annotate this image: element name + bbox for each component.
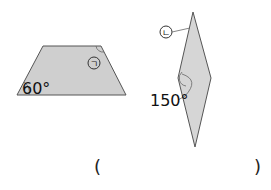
- angle-label-60: 60°: [22, 79, 50, 98]
- answer-close-paren: ): [254, 156, 261, 177]
- marker-giyeok: ㄱ: [90, 59, 98, 69]
- marker-leader-nieun: [172, 28, 190, 32]
- trapezoid: ㄱ 60°: [17, 46, 126, 98]
- marker-nieun: ㄴ: [162, 28, 170, 38]
- rhombus: ㄴ 150°: [150, 12, 211, 147]
- answer-blank[interactable]: [104, 156, 250, 178]
- answer-open-paren: (: [94, 156, 101, 177]
- angle-label-150: 150°: [150, 91, 189, 110]
